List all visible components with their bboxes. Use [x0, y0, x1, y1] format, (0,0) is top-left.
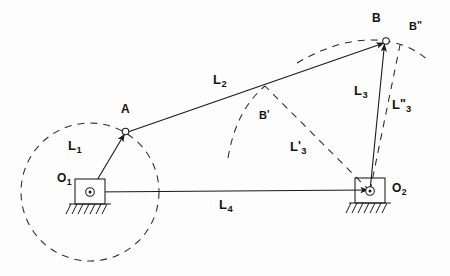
vector-label-L3: L3 [354, 84, 368, 100]
vector-L2-coupler [125, 43, 384, 133]
point-label-B-double-prime: B" [409, 21, 422, 32]
pivot-pin-O1-inner [89, 191, 92, 194]
point-label-O2: O2 [392, 182, 407, 196]
diagram-canvas: O1 O2 A B B' B" L1 L2 L3 L4 L'3 L"3 [0, 0, 450, 276]
point-label-B-prime: B' [259, 110, 269, 121]
point-label-B: B [372, 12, 381, 24]
vector-L3-prime-dashed [265, 86, 370, 191]
joint-pin-B [383, 38, 390, 45]
vector-L3-double-prime-dashed [370, 45, 400, 191]
vector-label-L2: L2 [213, 73, 227, 89]
vector-label-L1: L1 [68, 139, 82, 155]
vector-L4-ground-link [90, 190, 368, 192]
coupler-arc-locus-Bprime [228, 86, 265, 158]
rocker-arc-locus-B [297, 40, 430, 63]
vector-label-L4: L4 [219, 198, 233, 214]
joint-pin-A [122, 128, 129, 135]
vector-label-L3-double-prime: L"3 [392, 98, 411, 114]
vector-L3-rocker [370, 44, 385, 191]
ground-hatch-O2 [346, 203, 387, 213]
pivot-pin-O2-inner [369, 190, 372, 193]
point-label-A: A [121, 103, 130, 115]
vector-label-L3-prime: L'3 [290, 140, 306, 156]
ground-hatch-O1 [66, 204, 107, 214]
point-label-O1: O1 [57, 172, 72, 186]
